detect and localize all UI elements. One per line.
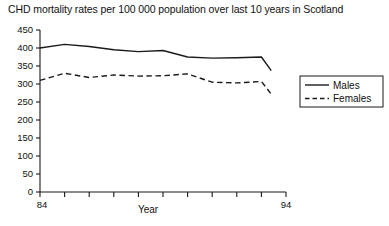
y-tick-label: 200 [17, 114, 33, 125]
y-tick-label: 0 [28, 186, 33, 197]
y-tick-label: 350 [17, 60, 33, 71]
data-series-group [40, 44, 271, 94]
y-tick-label: 250 [17, 96, 33, 107]
x-tick-label-end: 94 [281, 199, 292, 210]
y-axis: 050100150200250300350400450 [17, 24, 40, 197]
y-tick-label: 450 [17, 24, 33, 35]
x-tick-label-start: 84 [37, 199, 48, 210]
series-line-females [40, 73, 271, 94]
chd-mortality-line-chart: CHD mortality rates per 100 000 populati… [0, 0, 389, 226]
x-axis-title: Year [138, 204, 159, 215]
series-line-males [40, 44, 271, 70]
chart-legend: MalesFemales [300, 76, 383, 107]
chart-plot-area: 050100150200250300350400450 8494Year Mal… [0, 0, 389, 226]
y-tick-label: 150 [17, 132, 33, 143]
y-tick-label: 300 [17, 78, 33, 89]
y-tick-label: 100 [17, 150, 33, 161]
x-axis: 8494Year [37, 192, 292, 215]
legend-label-females: Females [333, 93, 371, 104]
y-tick-label: 50 [22, 168, 33, 179]
legend-label-males: Males [333, 80, 360, 91]
y-tick-label: 400 [17, 42, 33, 53]
